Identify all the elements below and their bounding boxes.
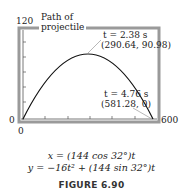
end-annotation-coords: (581.28, 0): [101, 99, 151, 109]
end-leader-line: [133, 108, 152, 119]
projectile-curve: [23, 54, 153, 119]
legend-line2: projectile: [41, 22, 84, 32]
end-annotation-time: t = 4.76 s: [104, 89, 148, 99]
y-ticks: [23, 42, 26, 102]
y-equation: y = −16t² + (144 sin 32°)t: [0, 162, 183, 173]
x-equation: x = (144 cos 32°)t: [0, 150, 183, 161]
legend-box: Path of projectile: [39, 12, 86, 32]
y-max-label: 120: [16, 16, 33, 26]
peak-annotation-coords: (290.64, 90.98): [101, 40, 171, 50]
y-min-label: 0: [9, 115, 15, 125]
peak-leader-line: [88, 40, 101, 53]
legend-line1: Path of: [41, 12, 84, 22]
x-ticks: [45, 116, 135, 119]
peak-annotation-time: t = 2.38 s: [103, 30, 147, 40]
x-min-label: 0: [18, 126, 24, 136]
x-max-label: 600: [161, 115, 178, 125]
figure-caption: FIGURE 6.90: [0, 180, 183, 190]
